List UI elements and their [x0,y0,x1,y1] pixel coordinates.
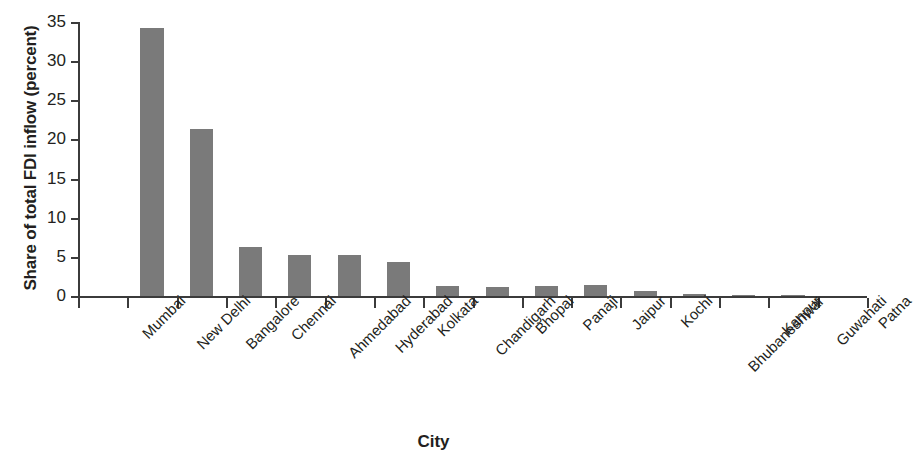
category-label: Mumbai [139,292,189,342]
x-tick [127,298,129,308]
y-tick: 10 [71,218,78,220]
bar [781,295,804,296]
x-tick [719,298,721,308]
y-tick-label: 5 [57,247,66,267]
plot-area: 05101520253035 [78,22,867,296]
category-label: Kanpur [779,292,825,338]
bar [387,262,410,296]
y-tick-label: 0 [57,286,66,306]
y-tick-label: 15 [47,169,66,189]
bar [288,255,311,296]
y-tick: 20 [71,139,78,141]
bar [140,28,163,296]
bar [190,129,213,296]
y-tick: 15 [71,179,78,181]
x-tick [423,298,425,308]
y-tick: 30 [71,61,78,63]
y-tick: 0 [71,296,78,298]
y-tick-label: 20 [47,129,66,149]
bar [338,255,361,296]
y-axis-title: Share of total FDI inflow (percent) [21,8,41,308]
x-tick [522,298,524,308]
x-axis-title: City [0,432,867,452]
y-tick-label: 10 [47,208,66,228]
x-tick [78,298,80,308]
y-tick: 25 [71,100,78,102]
bar [732,295,755,296]
bar [584,285,607,296]
x-tick [670,298,672,308]
category-label: Jaipur [628,292,669,333]
y-tick-label: 30 [47,51,66,71]
x-tick [768,298,770,308]
y-tick: 35 [71,22,78,24]
y-tick-label: 25 [47,90,66,110]
y-axis-line [78,22,80,297]
category-label: Panaji [579,292,621,334]
x-tick [620,298,622,308]
bar [486,287,509,296]
bar [239,247,262,296]
y-tick: 5 [71,257,78,259]
y-tick-label: 35 [47,12,66,32]
x-tick [374,298,376,308]
